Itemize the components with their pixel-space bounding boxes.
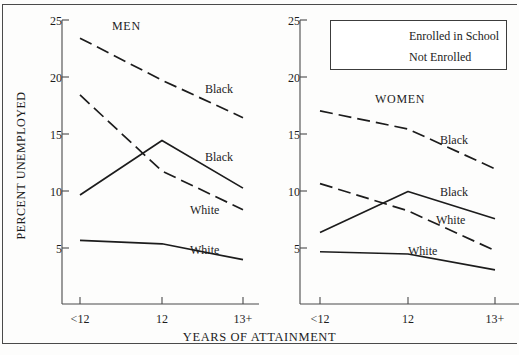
panel-men: PERCENT UNEMPLOYED MEN 25 20 15 10 5 <12…: [0, 0, 259, 355]
legend-item-not-enrolled: Not Enrolled: [331, 47, 506, 69]
series-group-women: [320, 111, 495, 270]
series-line-women-black-enrolled: [320, 192, 495, 233]
series-line-women-black-not-enrolled: [320, 111, 495, 169]
figure-container: PERCENT UNEMPLOYED MEN 25 20 15 10 5 <12…: [0, 0, 519, 355]
series-line-men-white-enrolled: [80, 240, 243, 259]
series-line-men-black-enrolled: [80, 140, 243, 195]
series-line-men-white-not-enrolled: [80, 95, 243, 210]
legend-item-enrolled: Enrolled in School: [331, 26, 506, 48]
series-line-women-white-enrolled: [320, 252, 495, 270]
series-group-men: [80, 38, 243, 260]
x-axis-title: YEARS OF ATTAINMENT: [0, 330, 519, 345]
plot-area-men: [0, 0, 259, 355]
legend-label-not-enrolled: Not Enrolled: [409, 50, 471, 65]
legend: Enrolled in School Not Enrolled: [330, 20, 507, 70]
series-line-men-black-not-enrolled: [80, 38, 243, 118]
series-line-women-white-not-enrolled: [320, 184, 495, 251]
legend-label-enrolled: Enrolled in School: [409, 29, 499, 44]
